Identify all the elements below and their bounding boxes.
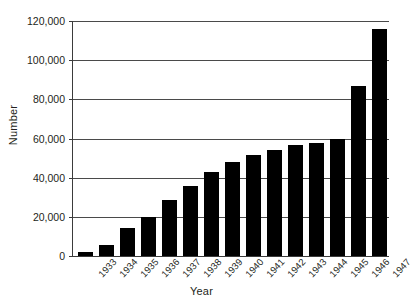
x-tick-label: 1934 bbox=[117, 257, 139, 279]
bar bbox=[225, 162, 240, 256]
bar bbox=[372, 29, 387, 256]
x-axis-title: Year bbox=[0, 285, 403, 297]
x-tick-label: 1945 bbox=[349, 257, 371, 279]
x-tick-label: 1937 bbox=[181, 257, 203, 279]
bar bbox=[204, 172, 219, 256]
bar bbox=[99, 245, 114, 256]
y-tick-label: 60,000 bbox=[33, 134, 65, 145]
plot-area bbox=[72, 21, 389, 257]
y-tick-label: 20,000 bbox=[33, 212, 65, 223]
bar bbox=[141, 217, 156, 256]
y-tick-label: 100,000 bbox=[27, 55, 65, 66]
bar bbox=[330, 139, 345, 256]
x-tick-label: 1935 bbox=[138, 257, 160, 279]
y-tick-label: 120,000 bbox=[27, 16, 65, 27]
bar bbox=[162, 200, 177, 256]
x-tick-label: 1936 bbox=[159, 257, 181, 279]
x-tick-label: 1943 bbox=[307, 257, 329, 279]
x-tick-label: 1946 bbox=[370, 257, 392, 279]
bars-group bbox=[73, 21, 389, 256]
bar bbox=[267, 150, 282, 256]
x-tick-label: 1944 bbox=[328, 257, 350, 279]
y-tick-label: 80,000 bbox=[33, 94, 65, 105]
bar bbox=[351, 86, 366, 256]
x-tick-label: 1942 bbox=[286, 257, 308, 279]
y-axis-tick-labels: 020,00040,00060,00080,000100,000120,000 bbox=[0, 0, 70, 303]
bar bbox=[246, 155, 261, 256]
bar bbox=[309, 143, 324, 256]
x-tick-label: 1941 bbox=[265, 257, 287, 279]
x-tick-label: 1947 bbox=[391, 257, 413, 279]
x-tick-label: 1940 bbox=[244, 257, 266, 279]
bar bbox=[120, 228, 135, 256]
y-tick-label: 0 bbox=[59, 251, 65, 262]
x-axis-tick-labels: 1933193419351936193719381939194019411942… bbox=[72, 257, 392, 287]
x-tick-label: 1939 bbox=[223, 257, 245, 279]
x-tick-label: 1938 bbox=[202, 257, 224, 279]
bar bbox=[288, 145, 303, 256]
bar bbox=[183, 186, 198, 257]
y-tick-label: 40,000 bbox=[33, 173, 65, 184]
x-tick-label: 1933 bbox=[96, 257, 118, 279]
bar bbox=[78, 252, 93, 256]
